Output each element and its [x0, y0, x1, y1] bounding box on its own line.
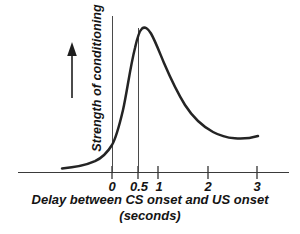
y-axis-label: Strength of conditioning — [90, 4, 104, 152]
conditioning-figure: Strength of conditioning 0 0.5 1 2 3 Del… — [0, 0, 300, 234]
x-axis-caption: Delay between CS onset and US onset (sec… — [0, 192, 300, 224]
x-axis-caption-line-1: Delay between CS onset and US onset — [0, 192, 300, 208]
up-arrow-icon — [67, 42, 77, 98]
x-axis-caption-line-2: (seconds) — [0, 208, 300, 224]
